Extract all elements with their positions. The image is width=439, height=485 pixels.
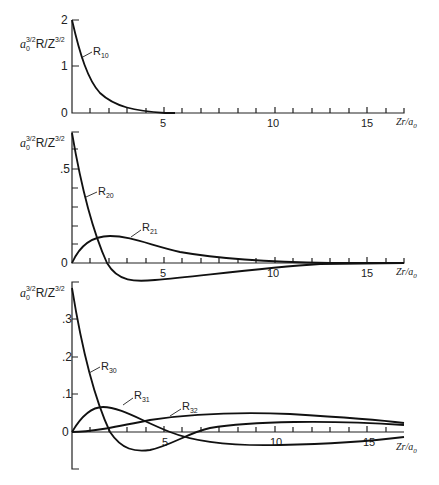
y-tick-label: 1: [61, 59, 68, 73]
x-axis-label: Zr/a0: [396, 441, 417, 455]
x-tick-label: 15: [361, 267, 373, 279]
label-r31: R31: [134, 389, 150, 403]
y-axis-label: a03/2R/Z3/2: [20, 36, 65, 52]
y-tick-label: 0: [61, 256, 68, 270]
x-tick-label: 15: [363, 436, 375, 448]
x-tick-label: 5: [160, 117, 166, 129]
leader-line: [86, 192, 97, 197]
curve-r21: [72, 236, 404, 263]
label-r20: R20: [98, 185, 114, 199]
y-tick-label: .1: [62, 387, 72, 401]
x-ticks: [90, 426, 386, 432]
label-r32: R32: [182, 400, 198, 414]
x-ticks: [90, 257, 386, 263]
y-axis-label: a03/2R/Z3/2: [20, 285, 65, 301]
axes: [72, 132, 404, 263]
label-r30: R30: [101, 360, 117, 374]
curve-r10: [72, 20, 175, 113]
leader-line: [123, 398, 133, 405]
label-r10: R10: [93, 45, 109, 59]
y-tick-label: 2: [61, 13, 68, 27]
panel-r20-r21: a03/2R/Z3/2 .5 0 5 10 15 Zr/a0 R20 R21: [20, 132, 417, 281]
panel-r30-r31-r32: a03/2R/Z3/2 .3 .2 .1 0 5 10 15 Zr/a0 R30…: [20, 282, 417, 469]
y-tick-label: .2: [62, 350, 72, 364]
label-r21: R21: [142, 221, 158, 235]
x-axis-label: Zr/a0: [396, 116, 417, 130]
radial-wavefunction-figure: a03/2R/Z3/2 2 1 0 5 10 15 Zr/a0 R10 a03/…: [0, 0, 439, 485]
y-axis-label: a03/2R/Z3/2: [20, 135, 65, 151]
x-tick-label: 10: [270, 436, 282, 448]
x-tick-label: 10: [267, 117, 279, 129]
leader-line: [81, 52, 92, 58]
y-tick-label: 0: [62, 425, 69, 439]
y-tick-label: 0: [61, 106, 68, 120]
leader-line: [170, 409, 181, 416]
axes: [72, 20, 404, 113]
x-tick-label: 15: [361, 117, 373, 129]
y-tick-label: .3: [62, 312, 72, 326]
panel-r10: a03/2R/Z3/2 2 1 0 5 10 15 Zr/a0 R10: [20, 13, 417, 130]
leader-line: [131, 230, 141, 237]
x-tick-label: 5: [160, 267, 166, 279]
x-axis-label: Zr/a0: [396, 266, 417, 280]
y-ticks: [72, 319, 78, 394]
leader-line: [89, 367, 100, 373]
y-tick-label: .5: [60, 162, 70, 176]
